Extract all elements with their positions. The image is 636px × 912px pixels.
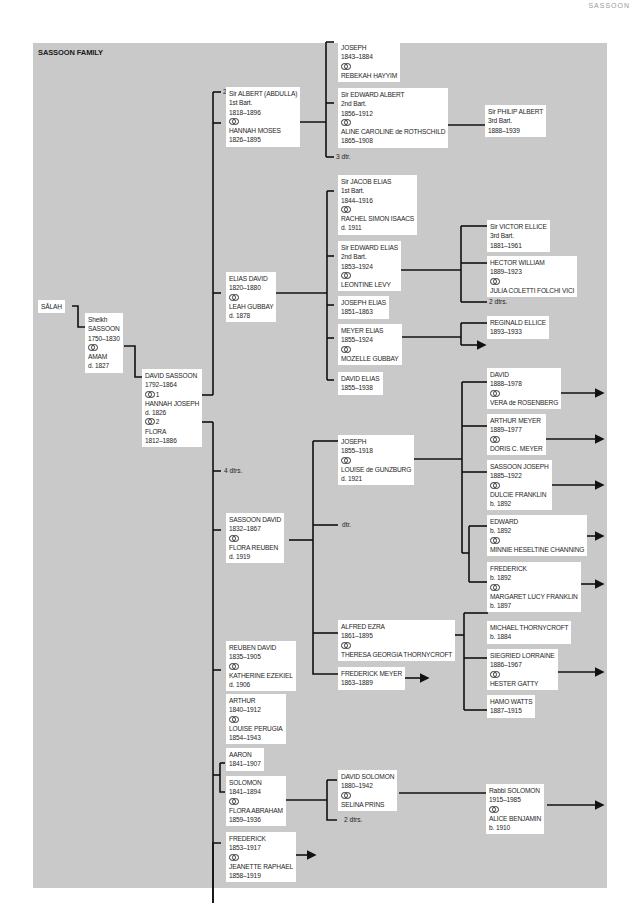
- marriage-rings-icon: [341, 642, 350, 648]
- person-text-line: 1856–1912: [341, 109, 445, 118]
- person-text-line: Sir JACOB ELIAS: [341, 177, 414, 186]
- person-text-line: 1812–1886: [145, 436, 199, 445]
- marriage-line: [229, 662, 293, 671]
- person-text-line: HESTER GATTY: [490, 679, 555, 688]
- marriage-rings-icon: [229, 535, 238, 541]
- person-text-line: 1841–1907: [229, 759, 261, 768]
- person-text-line: b. 1892: [490, 499, 549, 508]
- person-text-line: SELINA PRINS: [341, 800, 394, 809]
- person-text-line: ARTHUR: [229, 696, 283, 705]
- person-text-line: 1888–1939: [488, 126, 543, 135]
- person-text-line: FREDERICK MEYER: [341, 669, 402, 678]
- person-box-albert: Sir ALBERT (ABDULLA)1st Bart.1818–1896HA…: [226, 87, 300, 147]
- person-box-reuben-david: REUBEN DAVID1835–1905KATHERINE EZEKIELd.…: [226, 641, 296, 691]
- marriage-rings-icon: [490, 278, 499, 284]
- person-text-line: MINNIE HESELTINE CHANNING: [490, 545, 584, 554]
- person-text-line: 1885–1922: [490, 471, 549, 480]
- person-box-david-elias: DAVID ELIAS1855–1938: [338, 372, 383, 395]
- person-text-line: 1889–1977: [490, 425, 543, 434]
- marriage-line: [341, 641, 452, 650]
- person-text-line: HECTOR WILLIAM: [490, 258, 574, 267]
- person-text-line: DORIS C. MEYER: [490, 444, 543, 453]
- person-text-line: 1818–1896: [229, 108, 297, 117]
- marriage-rings-icon: [229, 798, 238, 804]
- person-text-line: DAVID SASSOON: [145, 371, 199, 380]
- person-text-line: d. 1921: [341, 474, 411, 483]
- marriage-rings-icon: [341, 457, 350, 463]
- person-text-line: 3rd Bart.: [488, 116, 543, 125]
- person-text-line: FLORA ABRAHAM: [229, 806, 283, 815]
- person-box-hamo-watts: HAMO WATTS1887–1915: [487, 695, 535, 718]
- person-text-line: REUBEN DAVID: [229, 643, 293, 652]
- person-text-line: 3rd Bart.: [490, 231, 547, 240]
- person-text-line: ARTHUR MEYER: [490, 416, 543, 425]
- person-text-line: 1893–1933: [490, 327, 546, 336]
- person-text-line: FREDERICK: [490, 564, 578, 573]
- marriage-line: [229, 534, 281, 543]
- marriage-line: [490, 389, 558, 398]
- marriage-rings-icon: [229, 294, 238, 300]
- marriage-rings-icon: [341, 272, 350, 278]
- person-text-line: KATHERINE EZEKIEL: [229, 671, 293, 680]
- person-text-line: AARON: [229, 750, 261, 759]
- person-box-david-1888: DAVID1888–1978VERA de ROSENBERG: [487, 368, 561, 409]
- person-text-line: DULCIE FRANKLIN: [490, 490, 549, 499]
- person-text-line: 1861–1895: [341, 631, 452, 640]
- person-text-line: ALFRED EZRA: [341, 622, 452, 631]
- person-text-line: JOSEPH ELIAS: [341, 298, 386, 307]
- note-2-daughters-solomon: 2 dtrs.: [344, 816, 362, 823]
- person-text-line: RACHEL SIMON ISAACS: [341, 214, 414, 223]
- person-box-joseph-elias: JOSEPH ELIAS1851–1863: [338, 296, 389, 319]
- person-text-line: d. 1826: [145, 408, 199, 417]
- person-box-arthur: ARTHUR1840–1912LOUISE PERUGIA1854–1943: [226, 694, 286, 744]
- note-3-daughters: 3 dtr.: [336, 153, 351, 160]
- person-text-line: 1843–1884: [341, 52, 397, 61]
- marriage-line: [341, 271, 398, 280]
- person-text-line: HANNAH MOSES: [229, 126, 297, 135]
- marriage-line: [341, 456, 411, 465]
- marriage-rings-icon: [490, 482, 499, 488]
- person-text-line: 1881–1961: [490, 241, 547, 250]
- person-text-line: MICHAEL THORNYCROFT: [490, 623, 568, 632]
- marriage-rings-icon: [145, 418, 154, 424]
- person-text-line: Rabbi SOLOMON: [489, 786, 541, 795]
- person-text-line: Sheikh: [88, 315, 120, 324]
- marriage-line: [490, 536, 584, 545]
- person-box-solomon: SOLOMON1841–1894FLORA ABRAHAM1859–1936: [226, 776, 286, 826]
- marriage-rings-icon: [229, 716, 238, 722]
- person-text-line: 1855–1924: [341, 335, 399, 344]
- person-text-line: b. 1892: [490, 573, 578, 582]
- marriage-rings-icon: [490, 671, 499, 677]
- person-text-line: 2nd Bart.: [341, 99, 445, 108]
- person-text-line: ALINE CAROLINE de ROTHSCHILD: [341, 127, 445, 136]
- person-text-line: 1889–1923: [490, 267, 574, 276]
- person-box-reginald-ellice: REGINALD ELLICE1893–1933: [487, 316, 549, 339]
- person-text-line: JOSEPH: [341, 43, 397, 52]
- marriage-line: [229, 797, 283, 806]
- person-text-line: FLORA REUBEN: [229, 543, 281, 552]
- person-text-line: EDWARD: [490, 517, 584, 526]
- marriage-rings-icon: [489, 806, 498, 812]
- person-text-line: THERESA GEORGIA THORNYCROFT: [341, 650, 452, 659]
- person-box-arthur-meyer: ARTHUR MEYER1889–1977DORIS C. MEYER: [487, 414, 546, 455]
- person-box-rabbi-solomon: Rabbi SOLOMON1915–1985ALICE BENJAMINb. 1…: [486, 784, 544, 834]
- person-text-line: 1853–1924: [341, 262, 398, 271]
- marriage-line: 1: [145, 390, 199, 399]
- person-text-line: 2nd Bart.: [341, 252, 398, 261]
- person-text-line: 1859–1936: [229, 815, 283, 824]
- person-text-line: 1915–1985: [489, 795, 541, 804]
- person-box-siegfried-lorraine: SIEGRIED LORRAINE1886–1967HESTER GATTY: [487, 649, 558, 690]
- person-text-line: 1888–1978: [490, 379, 558, 388]
- person-text-line: LEAH GUBBAY: [229, 302, 273, 311]
- person-text-line: HAMO WATTS: [490, 697, 532, 706]
- person-box-sassoon-joseph: SASSOON JOSEPH1885–1922DULCIE FRANKLINb.…: [487, 460, 552, 510]
- marriage-line: [341, 205, 414, 214]
- person-text-line: 1886–1967: [490, 660, 555, 669]
- person-text-line: 1853–1917: [229, 843, 293, 852]
- marriage-line: [341, 791, 394, 800]
- marriage-rings-icon: [145, 391, 154, 397]
- person-text-line: 1792–1864: [145, 380, 199, 389]
- person-text-line: 1820–1880: [229, 283, 273, 292]
- person-text-line: Sir VICTOR ELLICE: [490, 222, 547, 231]
- marriage-rings-icon: [341, 63, 350, 69]
